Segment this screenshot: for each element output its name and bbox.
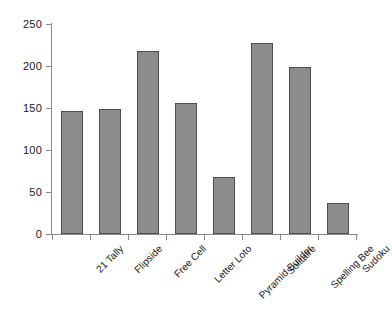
x-label-text: 21 Tally <box>94 243 126 275</box>
x-tick-2 <box>128 235 129 240</box>
x-tick-7 <box>318 235 319 240</box>
bar-pyramid-builder <box>213 177 235 234</box>
y-tick-100 <box>46 150 51 151</box>
x-label-21-tally: 21 Tally <box>94 243 126 275</box>
y-tick-250 <box>46 24 51 25</box>
x-label-text: Letter Loto <box>212 243 254 285</box>
x-label-text: Flipside <box>132 243 164 275</box>
x-tick-4 <box>204 235 205 240</box>
x-tick-6 <box>280 235 281 240</box>
y-tick-label-50: 50 <box>2 187 42 198</box>
bar-letter-loto <box>175 103 197 234</box>
x-label-text: Free Cell <box>172 243 208 279</box>
bar-flipside <box>99 109 121 234</box>
x-tick-3 <box>166 235 167 240</box>
x-label-letter-loto: Letter Loto <box>212 243 254 285</box>
y-tick-200 <box>46 66 51 67</box>
x-tick-0 <box>52 235 53 240</box>
y-tick-label-150: 150 <box>2 103 42 114</box>
y-tick-50 <box>46 192 51 193</box>
bar-spelling-bee <box>289 67 311 234</box>
y-tick-label-100: 100 <box>2 145 42 156</box>
bar-solitaire <box>251 43 273 234</box>
x-label-free-cell: Free Cell <box>172 243 208 279</box>
x-tick-1 <box>90 235 91 240</box>
bar-free-cell <box>137 51 159 234</box>
x-tick-5 <box>242 235 243 240</box>
plot-area <box>52 24 357 234</box>
x-tick-8 <box>356 235 357 240</box>
bar-21-tally <box>61 111 83 234</box>
y-tick-label-0: 0 <box>2 229 42 240</box>
y-tick-label-200: 200 <box>2 61 42 72</box>
y-tick-0 <box>46 234 51 235</box>
y-tick-label-250: 250 <box>2 19 42 30</box>
x-label-flipside: Flipside <box>132 243 164 275</box>
y-tick-150 <box>46 108 51 109</box>
bar-sudoku <box>327 203 349 234</box>
